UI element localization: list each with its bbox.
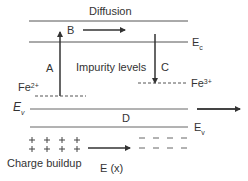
fe3-main: Fe (191, 77, 204, 89)
ev-left-main: E (13, 100, 21, 114)
ev-label-right: Ev (194, 122, 205, 134)
ev-label-left: Ev (13, 102, 25, 114)
field-label: E (x) (100, 163, 123, 174)
fe3-label: Fe3+ (191, 78, 212, 89)
ev-left-sub: v (21, 109, 25, 116)
negative-charges (139, 138, 187, 148)
diffusion-label: Diffusion (89, 6, 132, 17)
ec-sub: c (199, 44, 203, 51)
label-a: A (46, 63, 53, 74)
charge-buildup-label: Charge buildup (7, 158, 82, 169)
label-c: C (161, 62, 169, 73)
fe2-main: Fe (18, 81, 31, 93)
ec-label: Ec (192, 37, 203, 49)
label-d: D (122, 113, 130, 124)
fe2-label: Fe2+ (18, 82, 39, 93)
fe2-sup: 2+ (31, 82, 39, 89)
ev-right-sub: v (201, 129, 205, 136)
fe3-sup: 3+ (204, 78, 212, 85)
impurity-levels-label: Impurity levels (76, 62, 146, 73)
band-diagram: Diffusion B Ec A Impurity levels C Fe2+ … (0, 0, 248, 181)
positive-charges (29, 137, 80, 152)
label-b: B (67, 25, 74, 36)
